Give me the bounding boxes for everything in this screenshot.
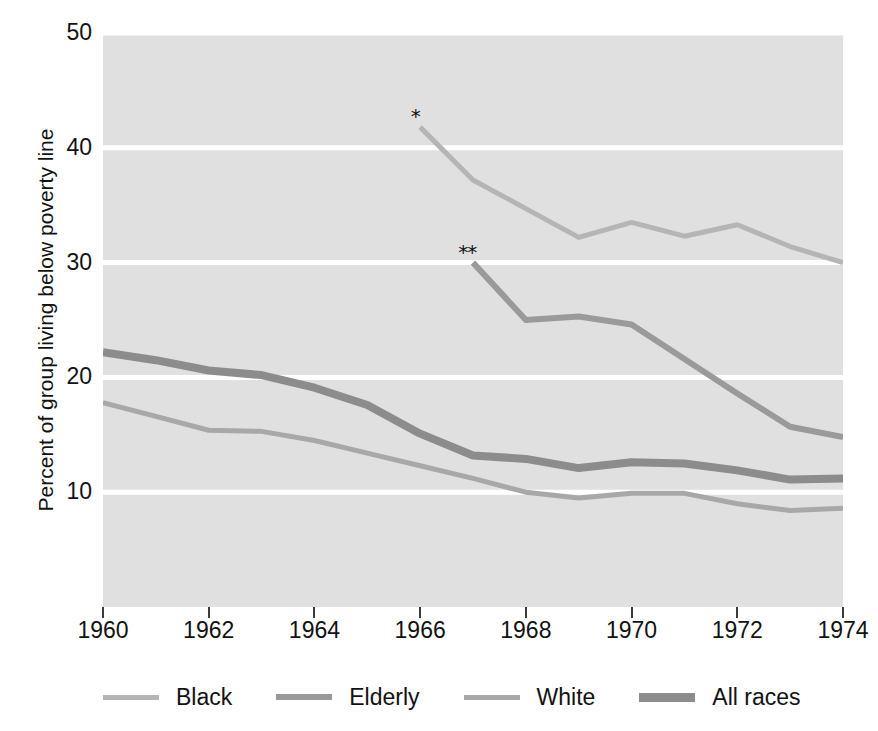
legend-swatch-icon (464, 695, 520, 700)
footnote-marker-double-asterisk: ** (458, 242, 476, 262)
y-tick-20: 20 (30, 365, 92, 388)
legend-label: Black (176, 684, 232, 711)
legend-item-black[interactable]: Black (103, 684, 232, 711)
legend-item-white[interactable]: White (464, 684, 596, 711)
legend-label: Elderly (349, 684, 419, 711)
legend-label: All races (712, 684, 800, 711)
y-tick-40: 40 (30, 136, 92, 159)
series-line-elderly (473, 263, 843, 438)
x-tick-1970: 1970 (606, 617, 657, 644)
x-tick-1968: 1968 (500, 617, 551, 644)
x-tick-1966: 1966 (395, 617, 446, 644)
x-tick-1962: 1962 (183, 617, 234, 644)
series-line-all-races (103, 352, 843, 479)
legend-label: White (537, 684, 596, 711)
x-tick-1960: 1960 (77, 617, 128, 644)
legend-item-all-races[interactable]: All races (639, 684, 800, 711)
legend-item-elderly[interactable]: Elderly (276, 684, 419, 711)
series-lines-group (103, 127, 843, 510)
y-tick-10: 10 (30, 480, 92, 503)
legend-swatch-icon (276, 694, 332, 700)
legend-swatch-icon (103, 695, 159, 700)
plot-area (103, 33, 843, 607)
chart-legend: BlackElderlyWhiteAll races (103, 680, 863, 714)
x-tick-1964: 1964 (289, 617, 340, 644)
x-tick-1974: 1974 (817, 617, 868, 644)
footnote-marker-single-asterisk: * (411, 106, 420, 126)
x-tick-1972: 1972 (712, 617, 763, 644)
y-tick-50: 50 (30, 21, 92, 44)
legend-swatch-icon (639, 693, 695, 702)
chart-lines-svg (103, 33, 843, 607)
y-tick-30: 30 (30, 251, 92, 274)
poverty-line-chart-figure: Percent of group living below poverty li… (0, 0, 878, 731)
